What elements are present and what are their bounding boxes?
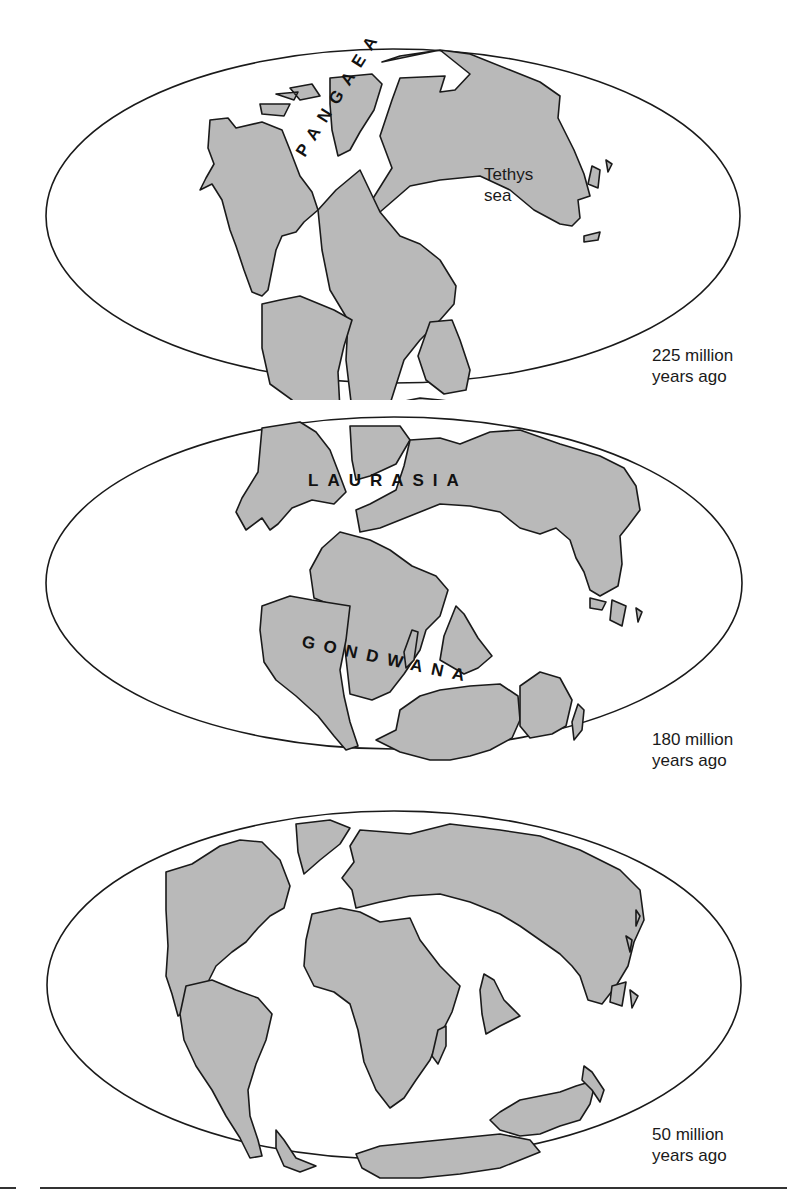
era-label-225: 225 million years ago (652, 345, 733, 387)
footer-rule-short (0, 1187, 16, 1189)
panel-50-mya: 50 million years ago (0, 790, 787, 1190)
era-line2: years ago (652, 750, 733, 771)
era-label-50: 50 million years ago (652, 1124, 727, 1166)
panel-225-mya: PANGAEA Tethys sea 225 million years ago (0, 0, 787, 400)
label-tethys-sea: Tethys sea (484, 164, 533, 206)
era-label-180: 180 million years ago (652, 729, 733, 771)
tethys-line2: sea (484, 185, 533, 206)
era-line2: years ago (652, 366, 733, 387)
footer-rule (40, 1187, 787, 1189)
label-laurasia: LAURASIA (308, 471, 468, 491)
era-line1: 180 million (652, 729, 733, 750)
map-pangaea (0, 0, 787, 400)
landmass-south-america (262, 296, 352, 400)
era-line1: 50 million (652, 1124, 727, 1145)
tethys-line1: Tethys (484, 164, 533, 185)
era-line1: 225 million (652, 345, 733, 366)
panel-180-mya: LAURASIA GONDWANA 180 million years ago (0, 400, 787, 790)
era-line2: years ago (652, 1145, 727, 1166)
